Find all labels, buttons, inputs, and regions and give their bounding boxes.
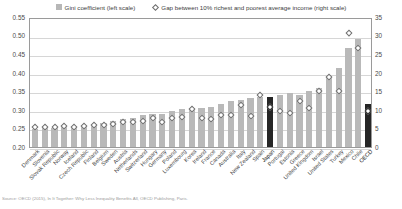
- bar-column: [208, 19, 214, 147]
- right-axis-tick-label: 20: [375, 71, 399, 77]
- right-axis-tick-label: 30: [375, 33, 399, 39]
- bar: [326, 77, 332, 147]
- bar: [218, 104, 224, 147]
- right-axis-tick-label: 15: [375, 89, 399, 95]
- bar: [306, 91, 312, 147]
- bar: [32, 129, 38, 147]
- bar-column: [130, 19, 136, 147]
- bar-column: [267, 19, 273, 147]
- bar-column: [189, 19, 195, 147]
- bar-series-layer: [30, 19, 371, 147]
- legend-item-gap: Gap between 10% richest and poorest aver…: [153, 4, 346, 11]
- legend-item-gini: Gini coefficient (left scale): [56, 4, 136, 11]
- bar-column: [228, 19, 234, 147]
- left-axis-tick-label: 0.25: [1, 126, 25, 132]
- bar: [287, 93, 293, 147]
- bar-column: [169, 19, 175, 147]
- bar-column: [120, 19, 126, 147]
- left-axis-tick-label: 0.20: [1, 145, 25, 151]
- left-axis-tick-label: 0.45: [1, 52, 25, 58]
- category-axis-labels: DenmarkSloveniaSlovak RepublicNorwayIcel…: [29, 149, 372, 197]
- bar-column: [345, 19, 351, 147]
- bar-column: [365, 19, 371, 147]
- right-axis-tick-label: 35: [375, 15, 399, 21]
- bar: [336, 68, 342, 147]
- plot-area: [29, 18, 372, 148]
- left-axis-tick-label: 0.35: [1, 89, 25, 95]
- bar: [316, 88, 322, 147]
- bar-column: [140, 19, 146, 147]
- bar-column: [159, 19, 165, 147]
- bar-column: [287, 19, 293, 147]
- legend-label-gini: Gini coefficient (left scale): [65, 4, 136, 11]
- bar-column: [336, 19, 342, 147]
- bar: [355, 39, 361, 147]
- bar: [61, 127, 67, 147]
- chart-footnote: Source: OECD (2015), In It Together: Why…: [2, 196, 400, 202]
- bar-column: [316, 19, 322, 147]
- bar: [208, 107, 214, 147]
- right-axis-tick-label: 0: [375, 145, 399, 151]
- left-axis-tick-label: 0.50: [1, 33, 25, 39]
- left-axis-tick-label: 0.40: [1, 71, 25, 77]
- bar: [228, 101, 234, 147]
- diamond-marker-icon: [152, 3, 159, 10]
- bar-column: [296, 19, 302, 147]
- legend-label-gap: Gap between 10% richest and poorest aver…: [161, 4, 346, 11]
- bar-column: [247, 19, 253, 147]
- bar: [189, 109, 195, 147]
- bar-column: [277, 19, 283, 147]
- left-axis-tick-label: 0.55: [1, 15, 25, 21]
- bar-column: [355, 19, 361, 147]
- right-axis-tick-label: 25: [375, 52, 399, 58]
- bar-column: [306, 19, 312, 147]
- bar-column: [257, 19, 263, 147]
- bar-column: [326, 19, 332, 147]
- bar: [247, 98, 253, 147]
- left-axis-tick-label: 0.30: [1, 108, 25, 114]
- bar-column: [238, 19, 244, 147]
- bar-column: [149, 19, 155, 147]
- bar: [277, 95, 283, 147]
- right-axis-tick-label: 10: [375, 108, 399, 114]
- bar: [345, 48, 351, 147]
- chart-legend: Gini coefficient (left scale) Gap betwee…: [0, 1, 402, 13]
- bar: [257, 97, 263, 147]
- bar-column: [218, 19, 224, 147]
- bar-column: [198, 19, 204, 147]
- bar-column: [179, 19, 185, 147]
- right-axis-tick-label: 5: [375, 126, 399, 132]
- chart-figure: Gini coefficient (left scale) Gap betwee…: [0, 0, 402, 209]
- square-swatch-icon: [56, 4, 62, 10]
